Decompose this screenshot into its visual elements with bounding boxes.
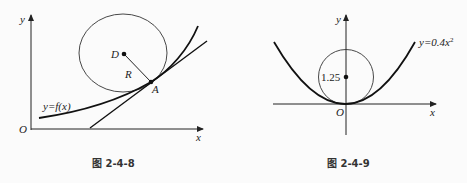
label-curve-base: y=0.4x: [418, 36, 450, 48]
label-curve-exp: 2: [450, 36, 454, 44]
label-d: D: [110, 48, 119, 60]
label-x-axis: x: [429, 106, 435, 118]
parabola: [274, 42, 415, 104]
diagram-canvas: D R A y=f(x) O x y 图 2-4-8 1.25 O x y y=…: [0, 0, 467, 183]
figure-2-4-9: 1.25 O x y y=0.4x2 图 2-4-9: [273, 13, 454, 169]
center-point: [344, 75, 349, 80]
label-curve: y=0.4x2: [418, 36, 454, 48]
label-r: R: [124, 68, 132, 80]
figure-2-4-8: D R A y=f(x) O x y 图 2-4-8: [19, 13, 207, 169]
label-y-axis: y: [19, 13, 25, 25]
caption-left: 图 2-4-8: [92, 158, 135, 169]
label-curve: y=f(x): [42, 100, 71, 113]
tangent-line: [90, 41, 207, 128]
center-point-d: [122, 52, 127, 57]
label-center-value: 1.25: [321, 71, 341, 83]
caption-right: 图 2-4-9: [327, 158, 370, 169]
label-y-axis: y: [335, 13, 341, 25]
label-a: A: [151, 83, 159, 95]
label-origin: O: [19, 123, 27, 135]
label-origin: O: [336, 106, 344, 118]
label-x-axis: x: [195, 131, 201, 143]
